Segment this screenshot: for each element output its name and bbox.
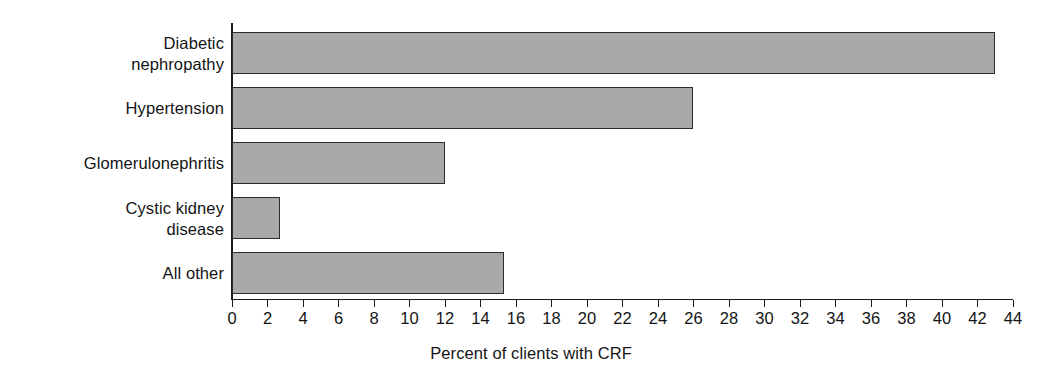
x-tick-label: 38: [897, 308, 915, 328]
x-tick-label: 12: [436, 308, 454, 328]
bar-all-other: [232, 252, 504, 294]
x-tick-label: 22: [613, 308, 631, 328]
bar-glomerulonephritis: [232, 142, 445, 184]
x-tick-label: 4: [298, 308, 307, 328]
x-tick-label: 28: [720, 308, 738, 328]
category-label: Glomerulonephritis: [0, 153, 224, 174]
x-tick-label: 20: [578, 308, 596, 328]
x-tick-label: 44: [1004, 308, 1022, 328]
category-axis: Diabetic nephropathy Hypertension Glomer…: [0, 23, 224, 299]
bar-hypertension: [232, 87, 693, 129]
x-tick-label: 2: [263, 308, 272, 328]
category-label: Diabetic nephropathy: [0, 33, 224, 75]
x-tick-label: 34: [826, 308, 844, 328]
plot-area: [232, 23, 1022, 299]
bar-cystic-kidney-disease: [232, 197, 280, 239]
x-tick-label: 14: [471, 308, 489, 328]
x-tick-label: 16: [507, 308, 525, 328]
bar-diabetic-nephropathy: [232, 32, 995, 74]
bar-chart-figure: Diabetic nephropathy Hypertension Glomer…: [0, 0, 1062, 387]
x-tick-label: 26: [684, 308, 702, 328]
x-tick-label: 18: [542, 308, 560, 328]
category-label: All other: [0, 263, 224, 284]
x-tick-label: 36: [862, 308, 880, 328]
x-axis-title: Percent of clients with CRF: [0, 344, 1062, 363]
x-tick-label: 24: [649, 308, 667, 328]
x-tick-label: 40: [933, 308, 951, 328]
x-tick-label: 6: [334, 308, 343, 328]
x-tick-label: 42: [968, 308, 986, 328]
x-tick-label: 0: [227, 308, 236, 328]
x-tick-label: 8: [369, 308, 378, 328]
category-label: Hypertension: [0, 98, 224, 119]
category-label: Cystic kidney disease: [0, 198, 224, 240]
x-tick-label: 10: [400, 308, 418, 328]
x-tick-label: 30: [755, 308, 773, 328]
x-tick-label: 32: [791, 308, 809, 328]
